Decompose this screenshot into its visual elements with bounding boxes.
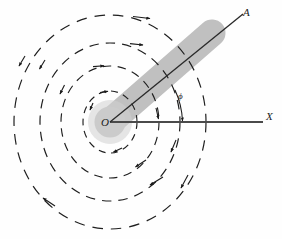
wavefront-diagram (0, 0, 282, 239)
label-angle-phi: ϕ (178, 92, 183, 101)
label-axis-x: X (266, 111, 273, 122)
label-origin-o: O (101, 117, 109, 128)
label-point-a: A (243, 7, 250, 18)
ray-OA (110, 14, 243, 122)
figure-canvas: A X O ϕ (0, 0, 282, 239)
